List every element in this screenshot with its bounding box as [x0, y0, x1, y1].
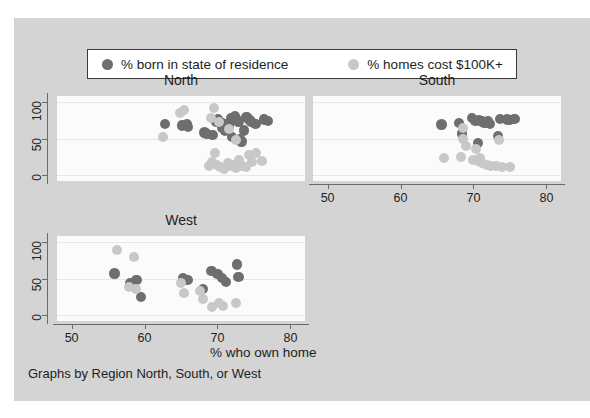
data-point — [176, 278, 186, 288]
legend-entry-homes-cost: % homes cost $100K+ — [348, 57, 502, 72]
circle-marker-light-icon — [348, 59, 359, 70]
data-point — [112, 245, 122, 255]
legend-label: % born in state of residence — [121, 57, 288, 72]
gridline — [57, 139, 305, 140]
panel-title-west: West — [57, 212, 305, 228]
x-axis-tick-label: 80 — [526, 191, 566, 205]
data-point — [257, 156, 267, 166]
y-axis-line — [47, 233, 48, 324]
x-axis-title: % who own home — [210, 345, 317, 360]
legend-entry-born-in-state: % born in state of residence — [102, 57, 288, 72]
x-axis-tick — [217, 324, 218, 329]
chart-page: % born in state of residence % homes cos… — [0, 0, 590, 418]
x-axis-tick — [328, 184, 329, 189]
data-point — [232, 259, 242, 269]
x-axis-line — [53, 324, 309, 325]
x-axis-tick-label: 50 — [52, 331, 92, 345]
y-axis-tick-label: 50 — [30, 138, 44, 178]
gridline — [57, 315, 305, 316]
data-point — [158, 132, 168, 142]
x-axis-tick — [72, 324, 73, 329]
y-axis-tick-label: 0 — [30, 174, 44, 214]
legend-label: % homes cost $100K+ — [367, 57, 502, 72]
data-point — [179, 288, 189, 298]
gridline — [313, 175, 561, 176]
x-axis-line — [309, 184, 565, 185]
gridline — [57, 175, 305, 176]
data-point — [183, 122, 193, 132]
x-axis-tick-label: 70 — [197, 331, 237, 345]
y-axis-tick-label: 100 — [30, 101, 44, 141]
data-point — [234, 155, 244, 165]
x-axis-tick — [145, 324, 146, 329]
scatter-plot-west — [57, 236, 305, 321]
scatter-plot-north — [57, 96, 305, 181]
data-point — [160, 119, 170, 129]
gridline — [57, 102, 305, 103]
data-point — [218, 301, 228, 311]
data-point — [207, 130, 217, 140]
data-point — [179, 105, 189, 115]
data-point — [461, 141, 471, 151]
circle-marker-dark-icon — [102, 59, 113, 70]
data-point — [485, 119, 495, 129]
x-axis-tick-label: 60 — [381, 191, 421, 205]
data-point — [209, 103, 219, 113]
x-axis-tick — [290, 324, 291, 329]
gridline — [57, 242, 305, 243]
data-point — [263, 116, 273, 126]
data-point — [239, 125, 249, 135]
data-point — [505, 162, 515, 172]
y-axis-tick-label: 100 — [30, 241, 44, 281]
x-axis-tick-label: 70 — [453, 191, 493, 205]
data-point — [231, 298, 241, 308]
data-point — [221, 277, 231, 287]
x-axis-tick-label: 80 — [270, 331, 310, 345]
x-axis-tick — [473, 184, 474, 189]
data-point — [494, 135, 504, 145]
data-point — [458, 123, 468, 133]
data-point — [475, 153, 485, 163]
panel-title-south: South — [313, 72, 561, 88]
data-point — [436, 119, 446, 129]
x-axis-tick — [401, 184, 402, 189]
data-point — [129, 252, 139, 262]
gridline — [313, 102, 561, 103]
chart-caption: Graphs by Region North, South, or West — [28, 366, 261, 381]
data-point — [456, 152, 466, 162]
data-point — [233, 272, 243, 282]
scatter-plot-south — [313, 96, 561, 181]
panel-title-north: North — [57, 72, 305, 88]
data-point — [247, 157, 257, 167]
x-axis-tick-label: 60 — [125, 331, 165, 345]
x-axis-tick-label: 50 — [308, 191, 348, 205]
data-point — [439, 153, 449, 163]
x-axis-tick — [546, 184, 547, 189]
y-axis-tick-label: 50 — [30, 278, 44, 318]
gridline — [313, 139, 561, 140]
chart-canvas: % born in state of residence % homes cos… — [14, 18, 590, 401]
y-axis-tick-label: 0 — [30, 314, 44, 354]
data-point — [109, 268, 119, 278]
data-point — [198, 294, 208, 304]
y-axis-line — [47, 93, 48, 184]
